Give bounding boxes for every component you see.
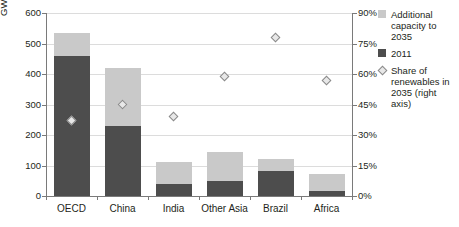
y-tick-mark-left <box>42 196 46 197</box>
x-axis-label: China <box>97 203 148 214</box>
bars-layer <box>46 13 352 196</box>
y-tick-label-left: 300 <box>25 100 41 110</box>
legend-item[interactable]: 2011 <box>378 48 459 59</box>
bar-segment-additional-capacity <box>258 159 294 172</box>
bar-segment-additional-capacity <box>309 174 345 190</box>
renewable-capacity-chart: GW 0100200300400500600 0%15%30%45%60%75%… <box>0 0 459 227</box>
x-axis-label: Other Asia <box>199 203 250 214</box>
y-tick-mark-left <box>42 166 46 167</box>
bar-segment-2011 <box>207 181 243 196</box>
bar-segment-additional-capacity <box>105 68 141 126</box>
y-tick-mark-right <box>353 135 357 136</box>
bar-group <box>207 13 243 196</box>
x-tick-mark <box>199 196 200 200</box>
x-axis-label: Africa <box>301 203 352 214</box>
bar-group <box>54 13 90 196</box>
bar-segment-2011 <box>54 56 90 196</box>
x-tick-mark <box>97 196 98 200</box>
legend-swatch-2011-icon <box>378 49 386 57</box>
bar-segment-2011 <box>258 171 294 196</box>
x-tick-mark <box>301 196 302 200</box>
bar-group <box>156 13 192 196</box>
x-tick-mark <box>250 196 251 200</box>
y-tick-label-left: 600 <box>25 8 41 18</box>
y-tick-label-right: 45% <box>358 100 377 110</box>
y-tick-label-right: 0% <box>358 191 372 201</box>
bar-segment-2011 <box>309 191 345 196</box>
chart-legend: Additional capacity to 20352011Share of … <box>378 9 459 115</box>
y-tick-label-right: 90% <box>358 8 377 18</box>
y-tick-mark-right <box>353 74 357 75</box>
bar-segment-2011 <box>105 126 141 196</box>
y-tick-label-right: 60% <box>358 69 377 79</box>
bar-stack <box>207 152 243 196</box>
bar-stack <box>105 68 141 196</box>
y-tick-mark-right <box>353 166 357 167</box>
x-tick-mark <box>148 196 149 200</box>
y-tick-mark-right <box>353 13 357 14</box>
y-tick-mark-left <box>42 44 46 45</box>
bar-stack <box>309 174 345 196</box>
legend-swatch-additional-capacity-icon <box>378 10 386 18</box>
bar-stack <box>258 159 294 197</box>
bar-stack <box>54 33 90 196</box>
bar-segment-additional-capacity <box>54 33 90 56</box>
x-axis-label: OECD <box>46 203 97 214</box>
y-tick-label-right: 30% <box>358 130 377 140</box>
y-tick-mark-right <box>353 196 357 197</box>
x-axis-labels: OECDChinaIndiaOther AsiaBrazilAfrica <box>46 199 352 219</box>
y-tick-mark-left <box>42 135 46 136</box>
y-tick-mark-right <box>353 44 357 45</box>
y-tick-label-left: 200 <box>25 130 41 140</box>
x-axis-label: India <box>148 203 199 214</box>
y-tick-mark-right <box>353 105 357 106</box>
y-axis-left-labels: 0100200300400500600 <box>0 0 41 227</box>
y-tick-label-right: 75% <box>358 39 377 49</box>
legend-diamond-share-icon <box>378 66 388 76</box>
bar-group <box>309 13 345 196</box>
bar-stack <box>156 162 192 196</box>
legend-item[interactable]: Share of renewables in 2035 (right axis) <box>378 65 459 109</box>
legend-item-label: Share of renewables in 2035 (right axis) <box>391 65 459 109</box>
bar-segment-additional-capacity <box>207 152 243 182</box>
y-tick-label-right: 15% <box>358 161 377 171</box>
bar-segment-2011 <box>156 184 192 196</box>
y-tick-label-left: 100 <box>25 161 41 171</box>
bar-segment-additional-capacity <box>156 162 192 183</box>
y-tick-mark-left <box>42 105 46 106</box>
y-tick-label-left: 0 <box>36 191 41 201</box>
x-axis-label: Brazil <box>250 203 301 214</box>
y-tick-mark-left <box>42 13 46 14</box>
legend-item-label: 2011 <box>391 48 411 59</box>
x-tick-mark <box>46 196 47 200</box>
y-tick-label-left: 400 <box>25 69 41 79</box>
legend-item[interactable]: Additional capacity to 2035 <box>378 9 459 42</box>
y-tick-label-left: 500 <box>25 39 41 49</box>
legend-item-label: Additional capacity to 2035 <box>391 9 459 42</box>
y-tick-mark-left <box>42 74 46 75</box>
